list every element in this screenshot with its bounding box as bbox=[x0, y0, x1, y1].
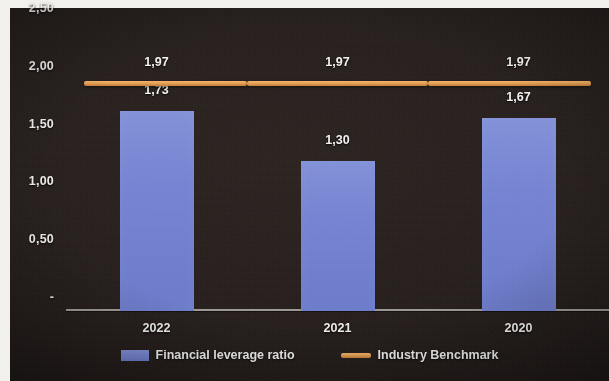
y-axis-tick-label: 2,00 bbox=[29, 59, 54, 73]
benchmark-line-segment bbox=[247, 81, 428, 86]
bar-2020 bbox=[482, 118, 556, 311]
x-axis-tick-label-2022: 2022 bbox=[143, 321, 171, 335]
legend-item-industry-benchmark: Industry Benchmark bbox=[341, 348, 499, 362]
y-axis-tick-label: 1,00 bbox=[29, 174, 54, 188]
legend-label-financial-leverage-ratio: Financial leverage ratio bbox=[156, 348, 295, 362]
bar-2021 bbox=[301, 161, 375, 311]
slide-background: 2,502,001,501,000,50- 1,731,301,67 1,971… bbox=[10, 8, 609, 381]
y-axis-tick-label: 0,50 bbox=[29, 232, 54, 246]
plot-area: 2,502,001,501,000,50- 1,731,301,67 1,971… bbox=[66, 22, 609, 311]
x-axis-tick-label-2021: 2021 bbox=[324, 321, 352, 335]
benchmark-line-segment bbox=[84, 81, 247, 86]
legend-label-industry-benchmark: Industry Benchmark bbox=[378, 348, 499, 362]
bar-value-label: 1,30 bbox=[325, 133, 349, 147]
chart-screenshot: 2,502,001,501,000,50- 1,731,301,67 1,971… bbox=[0, 0, 609, 381]
benchmark-line-segment bbox=[428, 81, 591, 86]
benchmark-value-label: 1,97 bbox=[144, 55, 168, 69]
benchmark-value-label: 1,97 bbox=[506, 55, 530, 69]
legend-bar-swatch-icon bbox=[121, 350, 149, 361]
y-axis-tick-label: 2,50 bbox=[29, 1, 54, 15]
legend-item-financial-leverage-ratio: Financial leverage ratio bbox=[121, 348, 295, 362]
legend-line-swatch-icon bbox=[341, 353, 371, 358]
benchmark-value-label: 1,97 bbox=[325, 55, 349, 69]
bar-value-label: 1,67 bbox=[506, 90, 530, 104]
x-axis-tick-label-2020: 2020 bbox=[505, 321, 533, 335]
bar-2022 bbox=[120, 111, 194, 311]
chart-legend: Financial leverage ratio Industry Benchm… bbox=[10, 348, 609, 362]
y-axis-tick-label: - bbox=[50, 290, 54, 304]
y-axis-tick-label: 1,50 bbox=[29, 117, 54, 131]
